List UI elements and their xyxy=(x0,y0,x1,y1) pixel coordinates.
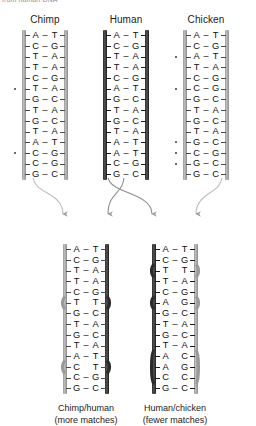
base-pair-row: T–A xyxy=(63,340,109,351)
base-left: T xyxy=(31,51,40,62)
hydrogen-bond: – xyxy=(81,308,91,319)
base-left: G xyxy=(31,94,40,105)
hydrogen-bond xyxy=(81,297,91,308)
base-right: C xyxy=(211,169,220,180)
base-left: A xyxy=(192,30,201,41)
base-right: T xyxy=(131,30,140,41)
base-left: C xyxy=(31,73,40,84)
base-left: G xyxy=(112,169,121,180)
hydrogen-bond: – xyxy=(40,94,50,105)
base-left: T xyxy=(72,319,81,330)
hybrid-molecule-human-chicken: A–TC–GT TT–AC–GA GG–CT–AG–CT–AA CA GC CG… xyxy=(152,244,198,394)
base-right: G xyxy=(211,148,220,159)
base-right: C xyxy=(50,169,59,180)
base-pair-row: G–C xyxy=(183,169,229,180)
base-right: A xyxy=(180,340,189,351)
base-right: G xyxy=(180,362,189,373)
hydrogen-bond: – xyxy=(121,41,131,52)
base-right: C xyxy=(180,330,189,341)
base-left: T xyxy=(161,265,170,276)
base-right: G xyxy=(211,83,220,94)
base-right: C xyxy=(211,94,220,105)
hydrogen-bond: – xyxy=(81,351,91,362)
dna-column-label: Chimp xyxy=(22,14,68,25)
hydrogen-bond: – xyxy=(81,330,91,341)
base-right: C xyxy=(91,383,100,394)
hydrogen-bond: – xyxy=(81,383,91,394)
base-left: A xyxy=(161,351,170,362)
base-pair-row: T–A xyxy=(103,105,149,116)
base-pair-row: T T xyxy=(63,297,109,308)
base-right: T xyxy=(131,83,140,94)
base-left: T xyxy=(192,62,201,73)
base-pair-row: T–A xyxy=(152,319,198,330)
base-right: A xyxy=(211,126,220,137)
base-pair-row: T–A xyxy=(152,340,198,351)
base-left: G xyxy=(192,116,201,127)
dna-column-label: Human xyxy=(103,14,149,25)
base-right: C xyxy=(91,330,100,341)
base-pair-row: T–A xyxy=(22,105,68,116)
hydrogen-bond: – xyxy=(170,255,180,266)
base-left: C xyxy=(161,372,170,383)
base-right: A xyxy=(91,276,100,287)
base-left: G xyxy=(192,169,201,180)
base-right: A xyxy=(91,340,100,351)
base-pair-row: C–G xyxy=(152,287,198,298)
base-pair-row: C–G xyxy=(183,83,229,94)
base-left: G xyxy=(72,383,81,394)
base-right: A xyxy=(180,276,189,287)
base-left: G xyxy=(161,383,170,394)
base-pair-row: T–A xyxy=(183,62,229,73)
base-right: A xyxy=(211,62,220,73)
base-left: C xyxy=(112,41,121,52)
base-right: A xyxy=(131,51,140,62)
hydrogen-bond: – xyxy=(81,340,91,351)
base-left: T xyxy=(192,126,201,137)
base-left: T xyxy=(112,51,121,62)
hydrogen-bond: – xyxy=(121,51,131,62)
hydrogen-bond: – xyxy=(81,244,91,255)
hydrogen-bond: – xyxy=(170,244,180,255)
base-pair-row: T–A xyxy=(183,126,229,137)
base-left: G xyxy=(161,330,170,341)
base-pair-row: C C xyxy=(152,372,198,383)
base-right: A xyxy=(50,126,59,137)
hydrogen-bond: – xyxy=(40,30,50,41)
base-pair-row: G–C xyxy=(22,169,68,180)
base-pair-row: C–G xyxy=(22,73,68,84)
hydrogen-bond: – xyxy=(40,62,50,73)
hydrogen-bond: – xyxy=(121,126,131,137)
hydrogen-bond: – xyxy=(121,73,131,84)
base-left: G xyxy=(112,94,121,105)
hydrogen-bond: – xyxy=(201,169,211,180)
hydrogen-bond: – xyxy=(121,169,131,180)
hydrogen-bond xyxy=(170,265,180,276)
base-pair-row: T–A xyxy=(22,83,68,94)
base-pair-row: G–C xyxy=(183,137,229,148)
base-right: T xyxy=(131,148,140,159)
base-left: A xyxy=(112,137,121,148)
hydrogen-bond xyxy=(81,362,91,373)
base-right: A xyxy=(211,105,220,116)
base-pair-row: G–C xyxy=(183,158,229,169)
mismatch-marker-dot xyxy=(175,163,177,165)
hydrogen-bond: – xyxy=(40,105,50,116)
base-pair-list: A–TC–GT–AT–AC–GT TG–CT–AG–CT–AA–TC TC–GG… xyxy=(63,244,109,394)
base-left: A xyxy=(161,297,170,308)
base-right: C xyxy=(180,308,189,319)
mismatch-marker-dot xyxy=(14,152,16,154)
base-pair-row: G–C xyxy=(183,116,229,127)
base-left: A xyxy=(72,244,81,255)
base-left: T xyxy=(112,105,121,116)
base-pair-row: G–C xyxy=(22,94,68,105)
base-pair-row: G–C xyxy=(183,94,229,105)
hydrogen-bond: – xyxy=(201,30,211,41)
base-pair-list: A–TC–GT–AT–AC–GT–AG–CT–AG–CT–AA–TC–GC–GG… xyxy=(22,30,68,180)
base-right: G xyxy=(211,41,220,52)
base-left: C xyxy=(192,148,201,159)
base-left: T xyxy=(161,276,170,287)
base-right: C xyxy=(131,116,140,127)
hydrogen-bond: – xyxy=(201,51,211,62)
